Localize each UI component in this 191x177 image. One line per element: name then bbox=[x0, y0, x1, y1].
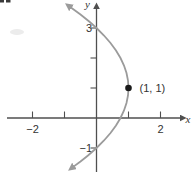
plotted-point bbox=[125, 85, 132, 92]
y-tick-label: −1 bbox=[79, 142, 92, 154]
x-tick-label: −2 bbox=[26, 123, 39, 135]
scan-artifact bbox=[0, 0, 24, 35]
coordinate-plane: x y −223−1 (1, 1) bbox=[0, 0, 191, 177]
point-coordinates-label: (1, 1) bbox=[140, 82, 166, 94]
graph-figure: x y −223−1 (1, 1) bbox=[0, 0, 191, 177]
x-axis-label: x bbox=[185, 113, 191, 125]
x-tick-label: 2 bbox=[157, 123, 163, 135]
marked-points: (1, 1) bbox=[125, 82, 165, 94]
y-axis-label: y bbox=[84, 0, 90, 10]
